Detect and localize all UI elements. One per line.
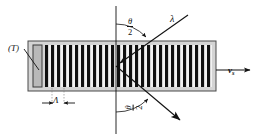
transducer-block — [33, 45, 42, 87]
grating-bar — [153, 45, 156, 87]
grating-bar — [123, 45, 126, 87]
grating-bar — [81, 45, 84, 87]
grating-bar — [159, 45, 162, 87]
grating-bar — [141, 45, 144, 87]
grating-bar — [171, 45, 174, 87]
bragg-angle-label-bottom: θ 2 — [124, 104, 143, 110]
grating-bar — [93, 45, 96, 87]
grating-bar — [75, 45, 78, 87]
grating-bar — [183, 45, 186, 87]
theta-divisor-bottom: 2 — [134, 104, 143, 110]
grating-bar — [147, 45, 150, 87]
grating-bar — [87, 45, 90, 87]
theta-divisor-top: 2 — [127, 28, 133, 37]
theta-symbol-top: θ — [127, 17, 133, 26]
grating-bar — [177, 45, 180, 87]
grating-bar — [207, 45, 210, 87]
grating-bar — [99, 45, 102, 87]
grating-bar — [165, 45, 168, 87]
grating-bar — [195, 45, 198, 87]
velocity-subscript: s — [232, 69, 235, 76]
transducer — [33, 45, 42, 87]
grating-bar — [57, 45, 60, 87]
grating-bar — [45, 45, 48, 87]
grating-bar — [105, 45, 108, 87]
acoustic-grating — [45, 45, 212, 87]
bragg-angle-label-top: θ 2 — [127, 17, 133, 36]
grating-bar — [201, 45, 204, 87]
grating-bar — [51, 45, 54, 87]
grating-bar — [111, 45, 114, 87]
wavelength-label: λ — [170, 14, 174, 24]
bragg-cell-diagram: (T) λ vs Λ θ 2 θ 2 — [0, 0, 256, 139]
transducer-label: (T) — [8, 44, 19, 53]
acoustic-velocity-label: vs — [228, 66, 235, 77]
grating-period-label: Λ — [53, 96, 58, 105]
grating-bar — [129, 45, 132, 87]
grating-bar — [63, 45, 66, 87]
theta-symbol-bottom: θ — [124, 104, 133, 110]
grating-bar — [117, 45, 120, 87]
grating-bar — [189, 45, 192, 87]
grating-bar — [69, 45, 72, 87]
